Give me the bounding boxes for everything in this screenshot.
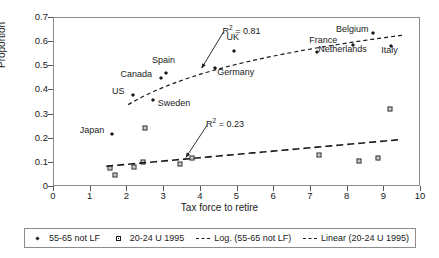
y-tick-label: 0.4 [2, 84, 48, 94]
data-point-marker [141, 159, 146, 164]
legend-item: Log. (55-65 not LF) [196, 233, 291, 243]
data-point-marker [357, 158, 362, 163]
x-tick-label: 7 [300, 191, 320, 201]
data-point-label: Japan [80, 126, 105, 135]
data-point-label: Germany [217, 68, 254, 77]
data-point-marker [189, 155, 194, 160]
x-tick-label: 0 [43, 191, 63, 201]
x-tick-label: 6 [263, 191, 283, 201]
legend-item-label: 20-24 U 1995 [130, 233, 185, 243]
data-point-label: Italy [381, 46, 398, 55]
data-point-label: Netherlands [318, 45, 367, 54]
x-tick-label: 5 [227, 191, 247, 201]
legend-item-label: 55-65 not LF [49, 233, 100, 243]
y-tick-label: 0.7 [2, 12, 48, 22]
legend-item-label: Log. (55-65 not LF) [214, 233, 291, 243]
dashed-line-icon [196, 234, 210, 243]
x-tick-label: 10 [410, 191, 430, 201]
data-point-label: Spain [152, 56, 175, 65]
legend-item: 55-65 not LF [31, 233, 100, 243]
data-point-marker [317, 153, 322, 158]
legend-item-label: Linear (20-24 U 1995) [321, 233, 409, 243]
data-point-label: Canada [121, 70, 153, 79]
diamond-marker-icon [31, 234, 45, 243]
y-tick-label: 0.5 [2, 60, 48, 70]
dash-long-line-icon [303, 234, 317, 243]
r-squared-annotation: R2 = 0.23 [206, 116, 244, 129]
x-tick-label: 3 [153, 191, 173, 201]
r-squared-annotation: R2 = 0.81 [223, 23, 261, 36]
square-marker-icon [112, 234, 126, 243]
data-point-marker [143, 126, 148, 131]
chart-screenshot: 00.10.20.30.40.50.60.7 Proportion JapanU… [0, 0, 439, 258]
data-point-marker [131, 165, 136, 170]
x-tick-label: 9 [373, 191, 393, 201]
data-point-marker [375, 156, 380, 161]
data-point-marker [387, 106, 392, 111]
y-axis-title: Proportion [0, 22, 7, 68]
y-tick-label: 0 [2, 181, 48, 191]
legend-item: Linear (20-24 U 1995) [303, 233, 409, 243]
y-tick-label: 0.3 [2, 109, 48, 119]
plot-area [53, 17, 420, 186]
x-tick-label: 1 [80, 191, 100, 201]
data-point-label: Sweden [158, 99, 191, 108]
data-point-marker [177, 162, 182, 167]
legend-item: 20-24 U 1995 [112, 233, 185, 243]
x-tick-label: 2 [116, 191, 136, 201]
x-tick-label: 4 [190, 191, 210, 201]
y-tick-label: 0.2 [2, 133, 48, 143]
data-point-marker [107, 166, 112, 171]
data-point-label: Belgium [336, 25, 369, 34]
data-point-label: US [112, 87, 125, 96]
chart-legend: 55-65 not LF20-24 U 1995Log. (55-65 not … [24, 228, 416, 248]
data-point-marker [112, 173, 117, 178]
y-tick-label: 0.1 [2, 157, 48, 167]
x-tick-label: 8 [337, 191, 357, 201]
y-tick-label: 0.6 [2, 36, 48, 46]
x-axis-title: Tax force to retire [0, 202, 439, 213]
